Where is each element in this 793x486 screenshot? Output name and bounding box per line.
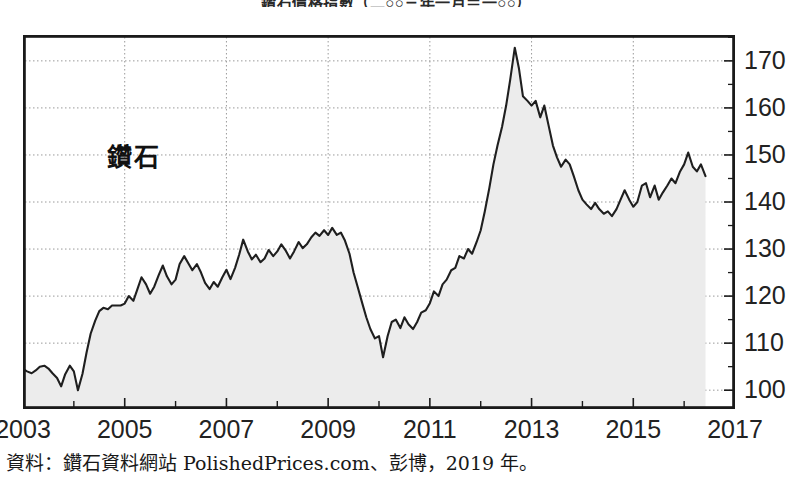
y-tick-label: 100 (744, 377, 793, 402)
y-tick-label: 110 (744, 330, 793, 355)
series-label-diamond: 鑽石 (107, 145, 161, 170)
x-tick-label: 2003 (0, 415, 68, 444)
chart-headline: 鑽石價格指數（二○○三年一月＝一○○） (0, 0, 793, 7)
x-tick-label: 2009 (283, 415, 373, 444)
x-tick-label: 2005 (80, 415, 170, 444)
diamond-price-chart-figure: 鑽石價格指數（二○○三年一月＝一○○） 鑽石 10011012013014015… (0, 0, 793, 486)
y-tick-label: 140 (744, 189, 793, 214)
x-tick-label: 2017 (690, 415, 780, 444)
series-area-fill (23, 48, 706, 409)
plot-area: 鑽石 (23, 35, 735, 409)
x-tick-label: 2013 (487, 415, 577, 444)
y-tick-label: 160 (744, 95, 793, 120)
y-axis-ticks (724, 37, 733, 390)
plot-svg (23, 35, 735, 409)
y-tick-label: 130 (744, 236, 793, 261)
x-tick-label: 2015 (588, 415, 678, 444)
x-tick-label: 2011 (385, 415, 475, 444)
source-note: 資料：鑽石資料網站 PolishedPrices.com、彭博，2019 年。 (6, 452, 786, 475)
y-tick-label: 170 (744, 48, 793, 73)
y-tick-label: 120 (744, 283, 793, 308)
y-tick-label: 150 (744, 142, 793, 167)
x-tick-label: 2007 (181, 415, 271, 444)
y-axis-labels: 100110120130140150160170 (744, 35, 793, 409)
x-axis-labels: 20032005200720092011201320152017 (0, 415, 793, 449)
